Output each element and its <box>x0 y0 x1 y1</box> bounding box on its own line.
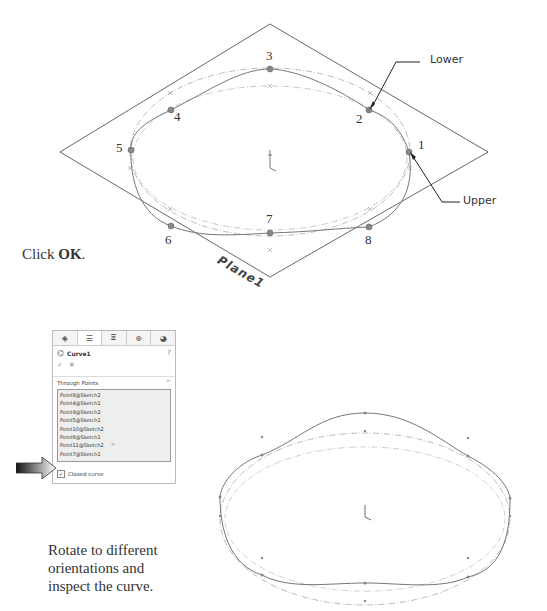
instruction-suffix: . <box>82 246 86 262</box>
dimxpert-icon: ⊕ <box>135 334 142 343</box>
tab-dimxpert-manager[interactable]: ⊕ <box>127 331 152 345</box>
list-item[interactable]: Point5@Sketch1 <box>60 416 168 424</box>
list-resize-handle[interactable]: ≡ <box>111 441 115 447</box>
instruction-click-ok: Click OK. <box>22 245 85 263</box>
cancel-button[interactable]: ✕ <box>69 361 75 369</box>
configuration-manager-icon: ⌸ <box>111 333 116 343</box>
list-item[interactable]: Point9@Sketch2 <box>60 408 168 416</box>
display-manager-icon: ◕ <box>160 334 167 343</box>
curve-through-points <box>131 69 410 235</box>
point-label-3: 3 <box>266 48 273 64</box>
closed-curve-label: Closed curve <box>68 471 104 477</box>
list-item[interactable]: Point10@Sketch2 <box>60 425 168 433</box>
manager-tabs: ◈ ☰ ⌸ ⊕ ◕ <box>53 331 175 346</box>
list-item[interactable]: Point7@Sketch1 <box>60 450 168 458</box>
point-label-8: 8 <box>365 232 372 248</box>
closed-curve-row: ✓ Closed curve <box>53 462 175 478</box>
rotated-curve <box>220 413 510 585</box>
section-title: Through Points <box>57 380 98 386</box>
point-label-4: 4 <box>174 109 181 125</box>
ok-button[interactable]: ✓ <box>57 361 63 369</box>
upper-leader <box>412 155 460 202</box>
rotated-curve-figure <box>210 400 547 611</box>
property-manager-icon: ☰ <box>86 334 93 343</box>
instruction-line: orientations and <box>48 559 158 577</box>
instruction-prefix: Click <box>22 246 58 262</box>
origin-icon <box>365 505 371 520</box>
instruction-rotate: Rotate to different orientations and ins… <box>48 541 158 595</box>
list-item[interactable]: Point8@Sketch2 <box>60 391 168 399</box>
point-label-1: 1 <box>418 137 425 153</box>
plane-figure <box>0 0 547 330</box>
ok-cancel-row: ✓ ✕ <box>53 360 175 370</box>
origin-icon <box>268 150 276 171</box>
point-label-2: 2 <box>356 111 363 127</box>
feature-manager-icon: ◈ <box>62 334 68 343</box>
curve-property-manager: ◈ ☰ ⌸ ⊕ ◕ ⌬ Curve1 ? ✓ ✕ Through Points … <box>52 330 176 484</box>
point-label-6: 6 <box>165 232 172 248</box>
list-item[interactable]: Point4@Sketch1 <box>60 399 168 407</box>
tab-configuration-manager[interactable]: ⌸ <box>102 331 127 345</box>
point-label-7: 7 <box>266 211 273 227</box>
chevron-up-icon[interactable]: ^ <box>165 379 171 387</box>
callout-lower: Lower <box>430 53 463 66</box>
help-icon[interactable]: ? <box>167 349 171 357</box>
through-points-header[interactable]: Through Points ^ <box>53 376 175 389</box>
through-points-list[interactable]: Point8@Sketch2 Point4@Sketch1 Point9@Ske… <box>57 389 171 462</box>
closed-curve-checkbox[interactable]: ✓ <box>57 470 65 478</box>
tab-display-manager[interactable]: ◕ <box>151 331 175 345</box>
tab-feature-manager[interactable]: ◈ <box>53 331 78 345</box>
callout-upper: Upper <box>463 194 496 207</box>
point-label-5: 5 <box>116 140 123 156</box>
instruction-line: inspect the curve. <box>48 577 158 595</box>
tab-property-manager[interactable]: ☰ <box>78 331 103 345</box>
pointer-arrow-icon <box>16 457 58 479</box>
feature-title: Curve1 <box>67 350 91 357</box>
instruction-ok-bold: OK <box>58 246 81 262</box>
feature-title-row: ⌬ Curve1 ? <box>53 346 175 360</box>
instruction-line: Rotate to different <box>48 541 158 559</box>
lower-leader <box>372 62 420 107</box>
curve-feature-icon: ⌬ <box>57 349 64 358</box>
